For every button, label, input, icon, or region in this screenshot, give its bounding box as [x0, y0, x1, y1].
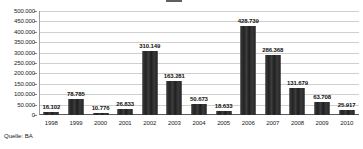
bar-slot: 428.739 — [236, 11, 261, 115]
bar[interactable] — [216, 111, 231, 115]
bar-slot: 50.673 — [187, 11, 212, 115]
source-note: Quelle: BA — [4, 132, 33, 140]
x-axis-tick-label: 2008 — [291, 119, 304, 127]
y-axis-tick-label: 50.000 — [17, 101, 35, 108]
bar-value-label: 18.633 — [215, 103, 233, 110]
bar-slot: 26.833 — [113, 11, 138, 115]
bar-slot: 16.102 — [39, 11, 64, 115]
bar[interactable] — [241, 26, 256, 115]
y-axis: 050.000100.000150.000200.000250.000300.0… — [0, 11, 37, 115]
x-axis: 1998199920002001200220032004200520062007… — [39, 117, 359, 129]
bar-slot: 18.633 — [211, 11, 236, 115]
bar[interactable] — [44, 112, 59, 115]
x-axis-tick-label: 2005 — [217, 119, 230, 127]
x-axis-tick-label: 2004 — [193, 119, 206, 127]
bar-slot: 10.776 — [88, 11, 113, 115]
bar-slot: 25.917 — [334, 11, 359, 115]
x-axis-tick-label: 2007 — [266, 119, 279, 127]
x-axis-tick-label: 1999 — [69, 119, 82, 127]
y-axis-tick-label: 500.000 — [14, 8, 35, 15]
bar-value-label: 131.679 — [287, 80, 308, 87]
bar[interactable] — [265, 55, 280, 115]
bar[interactable] — [339, 110, 354, 115]
x-axis-tick-label: 2002 — [143, 119, 156, 127]
y-axis-tick-label: 150.000 — [14, 80, 35, 87]
y-axis-tick-label: 400.000 — [14, 28, 35, 35]
bar-value-label: 163.281 — [164, 73, 185, 80]
y-axis-tick-label: 350.000 — [14, 39, 35, 46]
x-axis-tick-label: 2003 — [168, 119, 181, 127]
x-axis-tick-label: 1998 — [45, 119, 58, 127]
x-axis-tick-label: 2009 — [316, 119, 329, 127]
bar[interactable] — [315, 102, 330, 115]
bar-slot: 286.368 — [261, 11, 286, 115]
bar-value-label: 428.739 — [238, 18, 259, 25]
bar-value-label: 25.917 — [338, 102, 356, 109]
bars-layer: 16.10278.78510.77626.833310.149163.28150… — [39, 11, 359, 115]
bar[interactable] — [142, 51, 157, 116]
x-axis-tick-label: 2001 — [119, 119, 132, 127]
y-axis-tick-label: 300.000 — [14, 49, 35, 56]
bar-value-label: 50.673 — [190, 96, 208, 103]
bar-value-label: 10.776 — [92, 105, 110, 112]
bar[interactable] — [93, 113, 108, 115]
bar-slot: 131.679 — [285, 11, 310, 115]
bar-slot: 78.785 — [64, 11, 89, 115]
y-axis-tick-label: 200.000 — [14, 70, 35, 77]
bar-slot: 310.149 — [137, 11, 162, 115]
bar-value-label: 26.833 — [116, 101, 134, 108]
x-axis-tick-label: 2006 — [242, 119, 255, 127]
bar[interactable] — [167, 81, 182, 115]
x-axis-tick-label: 2010 — [340, 119, 353, 127]
bar-slot: 163.281 — [162, 11, 187, 115]
bar-slot: 63.708 — [310, 11, 335, 115]
y-axis-tick-label: 100.000 — [14, 91, 35, 98]
bar[interactable] — [118, 109, 133, 115]
cropped-title-sliver — [166, 0, 182, 2]
bar-value-label: 16.102 — [42, 104, 60, 111]
bar-value-label: 63.708 — [313, 94, 331, 101]
bar[interactable] — [191, 104, 206, 115]
bar-chart: 050.000100.000150.000200.000250.000300.0… — [0, 0, 363, 149]
y-axis-tick-label: 0 — [32, 112, 35, 119]
bar-value-label: 286.368 — [262, 47, 283, 54]
y-axis-tick-label: 250.000 — [14, 60, 35, 67]
x-axis-tick-label: 2000 — [94, 119, 107, 127]
y-axis-tick-label: 450.000 — [14, 18, 35, 25]
bar[interactable] — [290, 88, 305, 115]
bar-value-label: 78.785 — [67, 91, 85, 98]
bar[interactable] — [68, 99, 83, 115]
bar-value-label: 310.149 — [139, 43, 160, 50]
